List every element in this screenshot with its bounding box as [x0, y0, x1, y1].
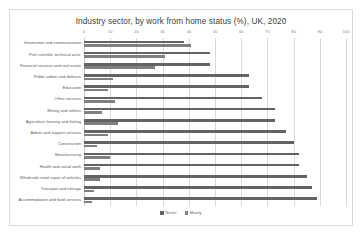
bar-never — [84, 52, 210, 55]
bar-mainly — [84, 190, 94, 193]
legend-item[interactable]: Mainly — [185, 210, 202, 215]
gridline-100 — [346, 38, 347, 206]
x-tick-label: 40 — [187, 29, 192, 34]
plot-area: Information and communicationProf scient… — [84, 38, 346, 206]
bar-never — [84, 197, 317, 200]
chart-category-row: Admin and support services — [84, 128, 346, 139]
bar-mainly — [84, 89, 108, 92]
x-tick-label: 100 — [343, 29, 350, 34]
bar-never — [84, 164, 299, 167]
bar-mainly — [84, 178, 100, 181]
bar-never — [84, 108, 275, 111]
bar-mainly — [84, 134, 108, 137]
y-axis-category-label: Wholesale retail repair of vehicles — [20, 176, 81, 180]
bar-never — [84, 97, 262, 100]
legend-label: Mainly — [190, 210, 202, 215]
chart-title: Industry sector, by work from home statu… — [10, 17, 352, 26]
bar-never — [84, 85, 249, 88]
bar-mainly — [84, 145, 97, 148]
bar-mainly — [84, 100, 115, 103]
legend-item[interactable]: Never — [160, 210, 176, 215]
bar-never — [84, 153, 299, 156]
legend-label: Never — [165, 210, 176, 215]
x-tick-label: 90 — [318, 29, 323, 34]
x-tick-label: 80 — [291, 29, 296, 34]
x-tick-label: 10 — [108, 29, 113, 34]
chart-category-row: Public admin and defence — [84, 72, 346, 83]
bar-never — [84, 119, 275, 122]
x-tick-label: 70 — [265, 29, 270, 34]
bar-never — [84, 74, 249, 77]
bar-never — [84, 141, 294, 144]
y-axis-category-label: Agriculture forestry and fishing — [26, 120, 81, 124]
y-axis-category-label: Mining and utilities — [47, 109, 81, 113]
chart-category-row: Construction — [84, 139, 346, 150]
y-axis-category-label: Transport and storage — [41, 187, 81, 191]
y-axis-category-label: Public admin and defence — [34, 75, 81, 79]
bar-mainly — [84, 122, 118, 125]
x-tick-label: 60 — [239, 29, 244, 34]
chart-category-row: Health and social work — [84, 161, 346, 172]
chart-legend: NeverMainly — [10, 210, 352, 215]
y-axis-category-label: Health and social work — [40, 165, 81, 169]
bar-mainly — [84, 44, 191, 47]
chart-category-row: Prof scientific technical activ. — [84, 49, 346, 60]
bar-mainly — [84, 201, 92, 204]
chart-category-row: Transport and storage — [84, 184, 346, 195]
y-axis-category-label: Admin and support services — [30, 131, 81, 135]
y-axis-category-label: Construction — [58, 142, 81, 146]
y-axis-category-label: Prof scientific technical activ. — [29, 53, 81, 57]
chart-category-row: Education — [84, 83, 346, 94]
y-axis-category-label: Financial services and real estate — [20, 64, 81, 68]
x-tick-label: 20 — [134, 29, 139, 34]
y-axis-category-label: Education — [63, 86, 81, 90]
x-tick-label: 30 — [160, 29, 165, 34]
chart-category-row: Financial services and real estate — [84, 60, 346, 71]
y-axis-category-label: Other services — [55, 97, 81, 101]
bar-never — [84, 186, 312, 189]
bar-never — [84, 63, 210, 66]
chart-category-row: Agriculture forestry and fishing — [84, 116, 346, 127]
chart-category-row: Manufacturing — [84, 150, 346, 161]
bar-mainly — [84, 167, 100, 170]
chart-category-row: Accommodation and food services — [84, 195, 346, 206]
y-axis-category-label: Manufacturing — [55, 153, 81, 157]
chart-category-row: Information and communication — [84, 38, 346, 49]
x-axis-tick-labels: 0102030405060708090100 — [84, 29, 346, 38]
x-tick-label: 0 — [83, 29, 85, 34]
bar-mainly — [84, 156, 110, 159]
legend-swatch-icon — [160, 211, 163, 214]
bar-mainly — [84, 111, 102, 114]
chart-category-row: Other services — [84, 94, 346, 105]
bar-never — [84, 41, 184, 44]
chart-category-row: Wholesale retail repair of vehicles — [84, 172, 346, 183]
bar-mainly — [84, 66, 155, 69]
bar-never — [84, 175, 307, 178]
legend-swatch-icon — [185, 211, 188, 214]
y-axis-category-label: Accommodation and food services — [18, 198, 81, 202]
y-axis-category-label: Information and communication — [24, 41, 81, 45]
chart-container: Industry sector, by work from home statu… — [9, 9, 353, 226]
bar-mainly — [84, 55, 165, 58]
bar-mainly — [84, 78, 113, 81]
chart-category-row: Mining and utilities — [84, 105, 346, 116]
bar-never — [84, 130, 286, 133]
x-tick-label: 50 — [213, 29, 218, 34]
